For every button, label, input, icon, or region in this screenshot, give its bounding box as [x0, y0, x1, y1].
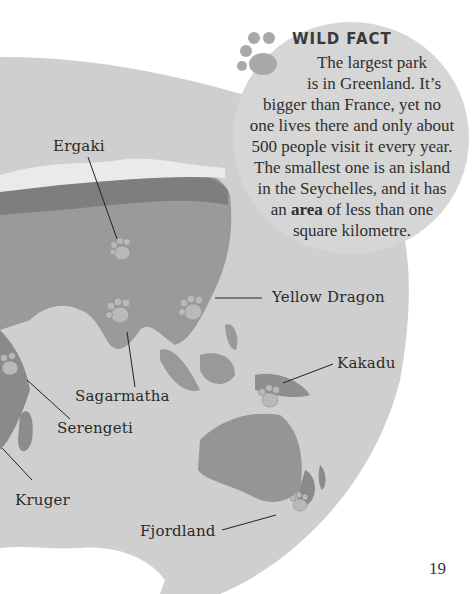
fact-line: is in Greenland. It’s — [232, 73, 472, 94]
fact-line: 500 people visit it every year. — [232, 136, 472, 157]
glossary-term-area: area — [291, 200, 323, 219]
fact-line: one lives there and only about — [232, 115, 472, 136]
label-kakadu: Kakadu — [337, 354, 396, 372]
fact-line: The smallest one is an island — [232, 157, 472, 178]
label-serengeti: Serengeti — [57, 419, 133, 437]
fact-line: The largest park — [232, 52, 472, 73]
fact-line: square kilometre. — [232, 220, 472, 241]
fact-line: an area of less than one — [232, 199, 472, 220]
fact-line: in the Seychelles, and it has — [232, 178, 472, 199]
label-sagarmatha: Sagarmatha — [75, 387, 170, 405]
fact-text: of less than one — [323, 200, 433, 219]
label-ergaki: Ergaki — [53, 137, 105, 155]
fact-line: bigger than France, yet no — [232, 94, 472, 115]
page-number: 19 — [429, 559, 446, 579]
label-yellow-dragon: Yellow Dragon — [272, 288, 385, 306]
book-page: Ergaki Yellow Dragon Kakadu Sagarmatha S… — [0, 0, 473, 594]
wild-fact-text: The largest park is in Greenland. It’s b… — [232, 52, 472, 241]
label-fjordland: Fjordland — [140, 522, 216, 540]
label-kruger: Kruger — [15, 491, 70, 509]
wild-fact-title: WILD FACT — [292, 30, 392, 48]
fact-text: an — [271, 200, 291, 219]
